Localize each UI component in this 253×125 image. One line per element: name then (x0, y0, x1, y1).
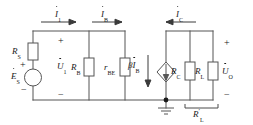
arrow-i1-head (69, 19, 76, 25)
label-resistor-rbe: rBE (104, 63, 115, 72)
label-resistor-rc: RC (171, 67, 181, 76)
label-current-ib: IB (101, 10, 108, 19)
label-current-ic: IC (176, 10, 183, 19)
circuit-schematic-canvas (0, 0, 253, 125)
resistor-rc-body (185, 62, 195, 80)
label-voltage-u1: U1 (57, 62, 67, 71)
junction-dot-ground-node (164, 98, 169, 103)
label-uo-plus: + (224, 38, 230, 48)
label-es-minus: − (21, 85, 27, 95)
label-resistor-rb: RB (71, 63, 81, 72)
circuit-diagram: I1 IB IC RS ES + − U1 + − RB rBE βIB RC … (0, 0, 253, 125)
label-uo-minus: − (224, 90, 230, 100)
resistor-rs-body (28, 43, 38, 60)
resistor-rb-body (84, 58, 94, 76)
ground-icon (158, 108, 174, 114)
label-resistor-rl-prime: R′L (193, 110, 204, 119)
arrow-ic-head (166, 19, 173, 25)
rl-prime-bracket (185, 104, 218, 108)
current-arrows (41, 19, 196, 25)
label-resistor-rl: RL (195, 67, 204, 76)
voltage-source-es-symbol (25, 69, 42, 86)
label-voltage-uo: UO (222, 67, 233, 76)
arrow-ib-head (115, 19, 122, 25)
label-resistor-rs: RS (12, 47, 21, 56)
resistor-rl-body (208, 62, 218, 80)
label-es-plus: + (20, 60, 26, 70)
label-current-i1: I1 (55, 10, 61, 19)
beta-ib-arrow (145, 55, 151, 87)
label-u1-minus: − (58, 90, 64, 100)
label-source-es: ES (11, 72, 20, 81)
label-u1-plus: + (58, 36, 64, 46)
label-dependent-source-beta-ib: βIB (128, 61, 140, 70)
